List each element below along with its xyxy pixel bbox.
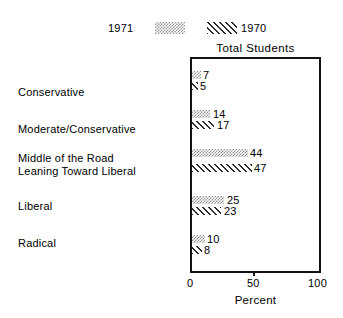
bar-1971-moderate-conservative [192,110,210,118]
bar-1971-radical [192,235,205,243]
legend-swatch-1970 [207,22,237,34]
x-axis-tick-label-0: 0 [187,277,193,290]
category-label-line: Liberal [18,200,52,212]
legend-label-1970: 1970 [241,21,266,35]
category-label-moderate-conservative: Moderate/Conservative [18,123,136,136]
category-label-line: Moderate/Conservative [18,123,136,135]
bar-1970-radical [192,246,202,254]
bar-1970-middle-of-the-road [192,164,252,172]
bar-value-1970-conservative: 5 [200,81,206,92]
bar-1971-conservative [192,71,201,79]
x-axis-tick-label-50: 50 [247,277,260,290]
bar-1970-liberal [192,207,221,215]
bar-value-1971-middle-of-the-road: 44 [250,148,263,159]
category-label-radical: Radical [18,237,56,250]
x-axis-title: Percent [190,294,321,306]
category-label-line-2: Leaning Toward Liberal [18,165,136,178]
chart-container: 1971 1970 Conservative Moderate/Conserva… [0,0,343,318]
category-label-line: Radical [18,237,56,249]
legend-swatch-1971 [155,22,185,34]
category-label-line: Conservative [18,86,85,98]
bar-value-1970-middle-of-the-road: 47 [254,163,267,174]
bar-1971-liberal [192,196,224,204]
bar-1971-middle-of-the-road [192,149,248,157]
category-label-liberal: Liberal [18,200,52,213]
bar-1970-conservative [192,82,198,90]
plot-title: Total Students [190,42,321,54]
category-label-middle-of-the-road: Middle of the Road Leaning Toward Libera… [18,152,136,178]
category-label-conservative: Conservative [18,86,85,99]
legend-label-1971: 1971 [108,21,133,35]
chart-legend: 1971 1970 [0,20,343,40]
bar-1970-moderate-conservative [192,121,214,129]
x-axis-tick-50 [253,271,255,276]
bar-value-1970-radical: 8 [204,245,210,256]
bar-value-1970-moderate-conservative: 17 [217,120,230,131]
bar-value-1970-liberal: 23 [224,206,237,217]
category-label-line: Middle of the Road [18,152,114,164]
x-axis-tick-label-100: 100 [308,277,327,290]
